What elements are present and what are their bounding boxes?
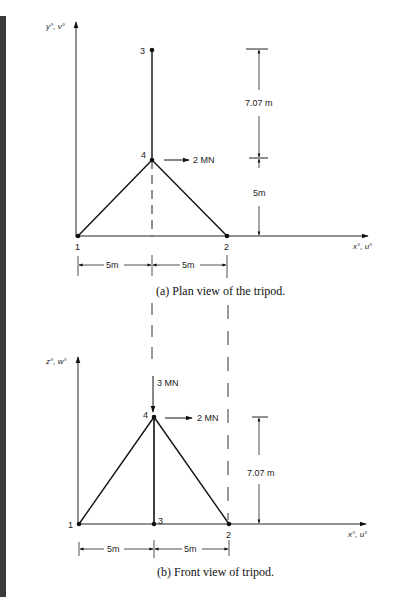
plan-node-2-label: 2: [224, 242, 229, 252]
front-node-4-label: 4: [143, 410, 148, 420]
front-member-1-4: [79, 417, 154, 524]
plan-node-3-label: 3: [140, 46, 145, 56]
plan-member-4-2: [152, 160, 227, 236]
front-horizontal-load-label: 2 MN: [197, 413, 219, 423]
front-node-1-label: 1: [68, 520, 73, 530]
front-node-2: [227, 522, 232, 527]
plan-y-axis-label: y°, v°: [45, 22, 66, 31]
plan-caption: (a) Plan view of the tripod.: [156, 284, 285, 298]
front-vertical-load-label: 3 MN: [157, 378, 179, 388]
plan-node-3: [150, 48, 155, 53]
front-node-1: [77, 522, 82, 527]
plan-member-1-4: [78, 160, 152, 236]
plan-node-1: [76, 234, 81, 239]
plan-node-2: [225, 234, 230, 239]
plan-node-4: [150, 158, 155, 163]
front-dim-right-label: 5m: [184, 544, 197, 554]
plan-view: y°, v° x°, u° 1 2 3 4 2 MN 7.07 m 5m: [45, 22, 373, 298]
plan-dim-right-label: 5m: [182, 260, 195, 270]
plan-load-label: 2 MN: [193, 155, 215, 165]
front-dim-height-label: 7.07 m: [247, 468, 275, 478]
plan-x-axis-label: x°, u°: [352, 242, 373, 251]
front-member-4-2: [154, 417, 229, 524]
front-node-2-label: 2: [226, 530, 231, 540]
plan-dim-left-label: 5m: [106, 260, 119, 270]
front-dim-left-label: 5m: [107, 544, 120, 554]
front-node-3: [152, 522, 157, 527]
plan-dim-upper-label: 7.07 m: [245, 98, 273, 108]
front-view: z°, w° x°, u° 1 2 3 4 3 MN 2 MN 7.07 m 5…: [45, 357, 368, 579]
front-node-4: [152, 415, 157, 420]
front-x-axis-label: x°, u°: [347, 530, 368, 539]
front-node-3-label: 3: [158, 516, 163, 526]
front-caption: (b) Front view of tripod.: [157, 565, 274, 579]
plan-dim-lower-label: 5m: [253, 188, 266, 198]
tripod-diagram: y°, v° x°, u° 1 2 3 4 2 MN 7.07 m 5m: [0, 0, 398, 597]
plan-node-4-label: 4: [141, 150, 146, 160]
plan-node-1-label: 1: [75, 242, 80, 252]
front-z-axis-label: z°, w°: [45, 357, 67, 366]
